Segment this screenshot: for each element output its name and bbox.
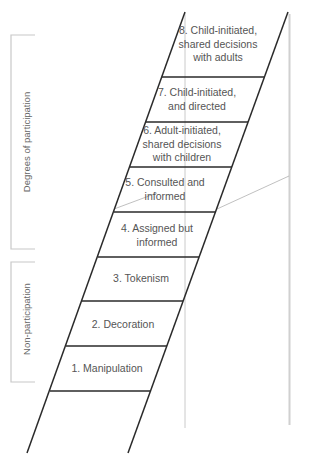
rung-label-8: 8. Child-initiated, shared decisions wit… [158, 24, 278, 65]
rung-label-3: 3. Tokenism [81, 272, 201, 286]
group-label-degrees-of-participation: Degrees of participation [21, 92, 32, 192]
group-label-non-participation: Non-participation [21, 283, 32, 355]
rung-label-4: 4. Assigned but informed [97, 222, 217, 249]
rung-label-6: 6. Adult-initiated, shared decisions wit… [122, 124, 242, 165]
right-diagonal-guide [217, 176, 289, 209]
rung-label-7: 7. Child-initiated, and directed [137, 86, 257, 113]
rung-label-5: 5. Consulted and informed [105, 176, 225, 203]
rung-label-2: 2. Decoration [63, 318, 183, 332]
rung-label-1: 1. Manipulation [47, 362, 167, 376]
